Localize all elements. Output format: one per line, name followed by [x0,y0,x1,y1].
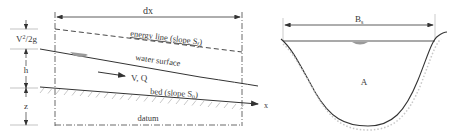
water-surface-marker-icon [352,42,368,45]
channel-bed [40,87,258,110]
energy-line-label: energy line (slope Sf) [130,28,203,48]
flow-label: V, Q [131,73,148,83]
flow-direction-arrow [98,72,125,76]
bed-label: bed (slope S0) [150,86,199,100]
datum-label: datum [137,113,159,123]
open-channel-flow-diagram: dx energy line (slope Sf) water surface … [0,0,464,132]
dx-label: dx [143,5,153,16]
surface-width-label: Bs [355,14,364,25]
longitudinal-profile: dx energy line (slope Sf) water surface … [10,5,268,126]
cross-section: Bs A [281,14,447,130]
water-surface-label: water surface [135,52,182,68]
depth-label: h [24,65,29,75]
elevation-label: z [24,101,28,111]
velocity-head-label: V2/2g [16,34,38,44]
x-axis-label: x [264,101,268,110]
flow-area-label: A [361,77,368,87]
